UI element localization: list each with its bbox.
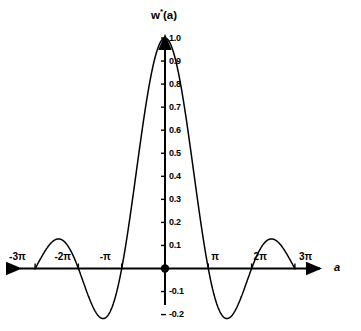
- chart-title-base: w: [151, 9, 160, 21]
- y-tick-label: 0.7: [169, 103, 181, 112]
- figure-container: w*(a) a 1.00.90.80.70.60.50.40.30.20.1-0…: [0, 0, 361, 331]
- x-tick-label: 3π: [299, 252, 312, 262]
- y-tick-label: 0.1: [169, 241, 181, 250]
- y-tick-label: 0.6: [169, 126, 181, 135]
- y-tick-label: -0.2: [169, 310, 184, 319]
- chart-title: w*(a): [151, 8, 177, 21]
- y-tick-label: 0.8: [169, 80, 181, 89]
- x-tick-label: -π: [100, 252, 111, 262]
- y-tick-label: 0.2: [169, 218, 181, 227]
- y-tick-label: -0.1: [169, 287, 184, 296]
- y-tick-label: 0.4: [169, 172, 181, 181]
- y-tick-label: 1.0: [169, 34, 181, 43]
- y-tick-label: 0.9: [169, 57, 181, 66]
- chart-title-argument: (a): [163, 9, 177, 21]
- x-axis-label: a: [334, 262, 340, 273]
- y-tick-label: 0.5: [169, 149, 181, 158]
- x-tick-label: -2π: [54, 252, 71, 262]
- plot-canvas: [0, 0, 361, 331]
- origin-marker: [161, 264, 169, 272]
- x-tick-label: 2π: [254, 252, 267, 262]
- y-tick-label: 0.3: [169, 195, 181, 204]
- x-tick-label: -3π: [9, 252, 26, 262]
- x-tick-label: π: [211, 252, 219, 262]
